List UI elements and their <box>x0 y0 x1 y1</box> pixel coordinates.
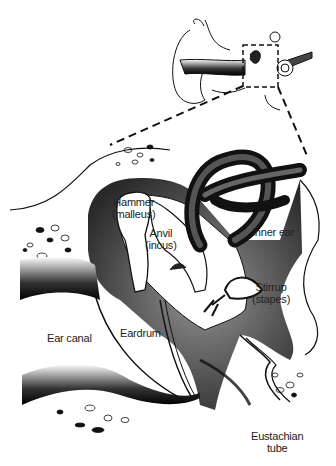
label-stirrup-text: Stirrup <box>252 281 290 293</box>
label-stapes-text: (stapes) <box>252 293 290 305</box>
label-tube-text: tube <box>251 442 303 454</box>
label-eardrum: Eardrum <box>120 327 161 339</box>
label-eustachian-tube: Eustachian tube <box>251 430 303 454</box>
label-anvil-text: Anvil <box>145 227 177 239</box>
label-stirrup: Stirrup (stapes) <box>252 281 290 305</box>
label-ear-canal: Ear canal <box>47 332 92 344</box>
zoom-guide-lines <box>110 86 308 158</box>
label-hammer: Hammer (malleus) <box>112 196 155 220</box>
label-malleus-text: (malleus) <box>112 208 155 220</box>
label-incus-text: (incus) <box>145 239 177 251</box>
inner-ear-wall <box>300 180 319 355</box>
label-inner-ear: Inner ear <box>252 226 294 238</box>
label-eustachian-text: Eustachian <box>251 430 303 442</box>
ear-canal-lower-shade <box>22 364 200 405</box>
label-hammer-text: Hammer <box>112 196 155 208</box>
label-anvil: Anvil (incus) <box>145 227 177 251</box>
outer-ear-overview <box>173 19 312 110</box>
